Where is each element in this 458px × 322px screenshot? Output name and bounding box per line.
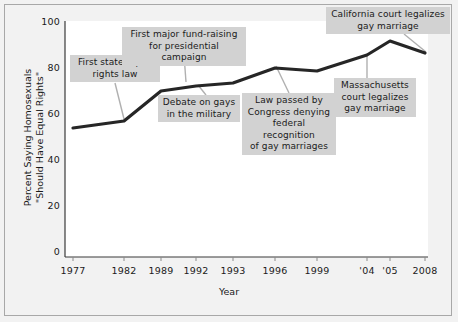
annotation-line-3: gay marriage: [338, 103, 412, 115]
annotation-line-1: Law passed by: [246, 95, 332, 107]
annotation-line-2: in the military: [162, 109, 236, 121]
annotation-line-3: federal recognition: [246, 118, 332, 141]
annotation-massachusetts-court-legalizes: Massachusetts court legalizes gay marria…: [334, 78, 416, 117]
chart-figure: 100 80 60 40 20 0 1977 1982 1989 1992 19…: [0, 0, 458, 322]
annotation-line-4: of gay marriages: [246, 141, 332, 153]
annotation-line-2: rights law: [74, 69, 156, 81]
annotation-line-1: First major fund-raising: [126, 29, 242, 41]
leader-first-state-equal-rights-law: [115, 83, 124, 119]
annotation-california-court-legalizes: California court legalizes gay marriage: [326, 7, 450, 34]
annotation-line-2: gay marriage: [330, 21, 446, 33]
annotation-line-1: Debate on gays: [162, 97, 236, 109]
annotation-line-2: for presidential campaign: [126, 41, 242, 64]
annotation-line-2: Congress denying: [246, 107, 332, 119]
annotation-line-1: California court legalizes: [330, 9, 446, 21]
annotation-line-2: court legalizes: [338, 92, 412, 104]
annotation-first-major-fund-raising: First major fund-raising for presidentia…: [122, 27, 246, 66]
annotation-law-passed-by-congress: Law passed by Congress denying federal r…: [242, 93, 336, 155]
annotation-debate-on-gays-in-the-military: Debate on gays in the military: [158, 95, 240, 122]
annotation-line-1: Massachusetts: [338, 80, 412, 92]
